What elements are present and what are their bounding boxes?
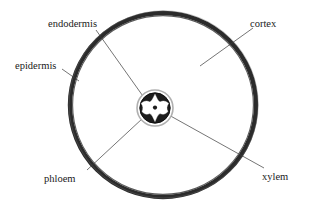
- label-phloem: phloem: [44, 173, 76, 184]
- label-xylem: xylem: [262, 171, 288, 182]
- xylem-centre-node: [153, 106, 157, 110]
- label-epidermis: epidermis: [15, 60, 56, 71]
- root-cross-section-diagram: endodermis cortex epidermis phloem xylem: [0, 0, 311, 216]
- label-endodermis: endodermis: [48, 18, 97, 29]
- label-cortex: cortex: [250, 18, 277, 29]
- diagram-canvas: endodermis cortex epidermis phloem xylem: [0, 0, 311, 216]
- stele-group: [137, 90, 173, 126]
